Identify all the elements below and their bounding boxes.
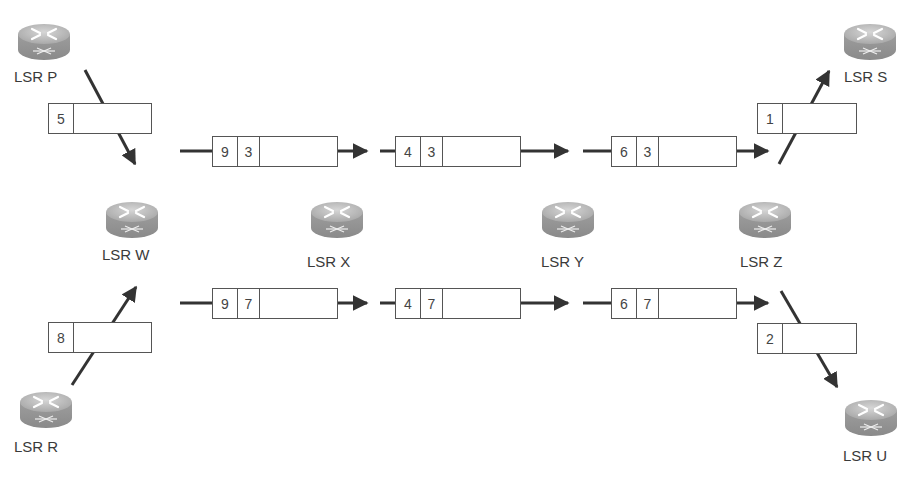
packet-ingress-bottom: 8 xyxy=(48,322,152,353)
router-label: LSR X xyxy=(307,253,350,270)
label-cell: 2 xyxy=(758,324,783,353)
router-label: LSR Z xyxy=(740,253,783,270)
label-cell: 8 xyxy=(49,323,74,352)
packet-x-y-bottom: 47 xyxy=(395,288,521,319)
label-cell: 6 xyxy=(612,137,637,166)
router-label: LSR S xyxy=(844,68,887,85)
label-cell: 9 xyxy=(213,137,238,166)
payload-cell xyxy=(74,104,151,133)
router-icon xyxy=(309,200,365,240)
payload-cell xyxy=(74,323,151,352)
payload-cell xyxy=(783,104,856,133)
router-icon xyxy=(842,22,898,62)
router-icon xyxy=(737,200,793,240)
packet-w-x-top: 93 xyxy=(212,136,338,167)
router-label: LSR R xyxy=(14,438,58,455)
router-label: LSR W xyxy=(102,246,150,263)
label-cell: 3 xyxy=(421,137,443,166)
packet-egress-top: 1 xyxy=(757,103,857,134)
packet-w-x-bottom: 97 xyxy=(212,288,338,319)
router-label: LSR U xyxy=(843,447,887,464)
packet-y-z-top: 63 xyxy=(611,136,737,167)
label-cell: 9 xyxy=(213,289,238,318)
payload-cell xyxy=(443,137,520,166)
diagram-canvas xyxy=(0,0,912,482)
packet-y-z-bottom: 67 xyxy=(611,288,737,319)
label-cell: 4 xyxy=(396,289,421,318)
router-icon xyxy=(16,22,72,62)
arrows-layer xyxy=(72,70,837,387)
label-cell: 1 xyxy=(758,104,783,133)
packet-x-y-top: 43 xyxy=(395,136,521,167)
router-icon xyxy=(104,200,160,240)
router-label: LSR Y xyxy=(541,253,584,270)
router-icon xyxy=(843,398,899,438)
payload-cell xyxy=(783,324,856,353)
router-icon xyxy=(18,390,74,430)
label-cell: 6 xyxy=(612,289,637,318)
payload-cell xyxy=(443,289,520,318)
label-cell: 7 xyxy=(238,289,260,318)
payload-cell xyxy=(659,137,736,166)
payload-cell xyxy=(260,289,337,318)
payload-cell xyxy=(659,289,736,318)
router-icon xyxy=(540,200,596,240)
label-cell: 3 xyxy=(637,137,659,166)
payload-cell xyxy=(260,137,337,166)
label-cell: 7 xyxy=(421,289,443,318)
label-cell: 4 xyxy=(396,137,421,166)
packet-egress-bottom: 2 xyxy=(757,323,857,354)
label-cell: 3 xyxy=(238,137,260,166)
label-cell: 7 xyxy=(637,289,659,318)
packet-ingress-top: 5 xyxy=(48,103,152,134)
router-label: LSR P xyxy=(14,68,57,85)
label-cell: 5 xyxy=(49,104,74,133)
